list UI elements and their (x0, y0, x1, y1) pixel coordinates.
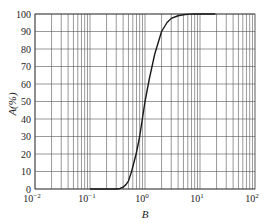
y-tick-label: 90 (21, 26, 31, 37)
x-tick-label: 102 (245, 192, 259, 204)
y-tick-label: 40 (21, 114, 31, 125)
y-tick-label: 70 (21, 61, 31, 72)
y-tick-label: 100 (16, 9, 31, 20)
x-tick-label: 10−2 (23, 192, 41, 204)
y-axis-ticks: 0102030405060708090100 (16, 9, 31, 195)
x-axis-label: B (142, 208, 149, 220)
x-axis-ticks: 10−210−1100101102 (23, 192, 259, 204)
y-tick-label: 50 (21, 96, 31, 107)
x-tick-label: 101 (190, 192, 204, 204)
y-tick-label: 10 (21, 166, 31, 177)
y-tick-label: 30 (21, 131, 31, 142)
y-tick-label: 60 (21, 79, 31, 90)
chart: 0102030405060708090100 10−210−1100101102… (0, 0, 268, 223)
x-tick-label: 10−1 (78, 192, 96, 204)
y-axis-label: A(%) (6, 92, 19, 117)
y-tick-label: 80 (21, 44, 31, 55)
x-tick-label: 100 (135, 192, 149, 204)
y-tick-label: 20 (21, 149, 31, 160)
